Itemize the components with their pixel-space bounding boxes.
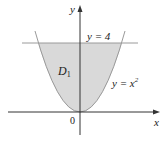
curve-label: y = x2	[111, 76, 139, 89]
region-diagram: y x 0 y = 4 D1 y = x2	[0, 0, 167, 141]
y-axis-arrow-icon	[78, 5, 83, 12]
x-axis-label: x	[153, 116, 159, 128]
x-axis-arrow-icon	[153, 110, 160, 115]
line-label: y = 4	[86, 30, 111, 42]
origin-label: 0	[70, 115, 75, 126]
y-axis-label: y	[69, 3, 75, 15]
